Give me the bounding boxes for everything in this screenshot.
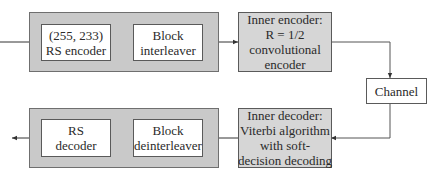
block-deinterleaver-block: Block deinterleaver (133, 119, 203, 157)
rs-encoder-line-1: (255, 233) (49, 28, 103, 43)
block-deinterleaver-line-2: deinterleaver (134, 138, 202, 153)
inner-decoder-line-1: Inner decoder: (247, 108, 322, 123)
inner-encoder-line-4: encoder (264, 57, 305, 72)
block-interleaver-block: Block interleaver (133, 24, 203, 61)
rs-encoder-block: (255, 233) RS encoder (41, 24, 111, 61)
rs-decoder-line-1: RS (68, 123, 84, 138)
inner-decoder-line-4: decision decoding (238, 153, 332, 168)
block-interleaver-line-1: Block (152, 28, 183, 43)
channel-block: Channel (366, 78, 427, 104)
inner-decoder-block: Inner decoder: Viterbi algorithm with so… (238, 108, 332, 168)
block-interleaver-line-2: interleaver (140, 43, 196, 58)
rs-encoder-line-2: RS encoder (46, 43, 106, 58)
inner-decoder-line-3: with soft- (260, 138, 310, 153)
channel-to-inner-decoder-arrow (331, 104, 390, 138)
rs-decoder-line-2: decoder (55, 138, 96, 153)
inner-encoder-line-3: convolutional (249, 42, 321, 57)
inner-decoder-line-2: Viterbi algorithm (240, 123, 330, 138)
block-deinterleaver-line-1: Block (152, 123, 183, 138)
inner-encoder-line-1: Inner encoder: (247, 12, 322, 27)
inner-encoder-to-channel-arrow (331, 42, 390, 78)
channel-label: Channel (375, 84, 418, 99)
inner-encoder-line-2: R = 1/2 (265, 27, 304, 42)
inner-encoder-block: Inner encoder: R = 1/2 convolutional enc… (238, 12, 332, 72)
rs-decoder-block: RS decoder (41, 119, 111, 157)
